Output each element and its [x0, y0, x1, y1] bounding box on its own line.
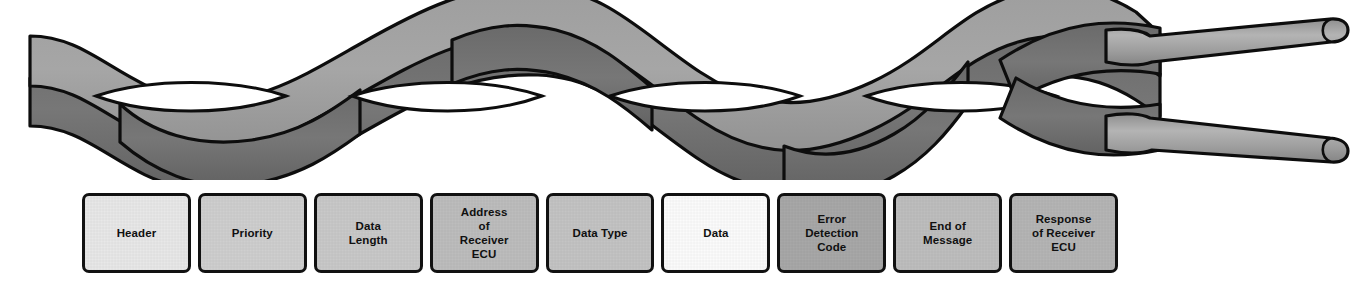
- frame-field-priority: Priority: [198, 193, 307, 273]
- can-bus-twisted-pair-and-message-frame-figure: Header Priority Data Length Address of R…: [0, 0, 1372, 292]
- frame-field-data-type: Data Type: [546, 193, 655, 273]
- frame-field-label: Error Detection Code: [802, 212, 861, 254]
- frame-field-error-detection-code: Error Detection Code: [777, 193, 886, 273]
- frame-field-data-length: Data Length: [314, 193, 423, 273]
- frame-field-end-of-message: End of Message: [893, 193, 1002, 273]
- frame-field-label: Response of Receiver ECU: [1029, 212, 1098, 254]
- frame-field-label: Priority: [229, 226, 276, 240]
- frame-field-data: Data: [661, 193, 770, 273]
- frame-field-label: Data: [700, 226, 731, 240]
- separated-wire-lower: [1106, 114, 1348, 162]
- frame-field-label: Header: [114, 226, 160, 240]
- message-frame-field-row: Header Priority Data Length Address of R…: [82, 193, 1118, 273]
- frame-field-response-of-receiver-ecu: Response of Receiver ECU: [1009, 193, 1118, 273]
- twisted-pair-wire-svg: [0, 0, 1372, 180]
- twisted-pair-wire-illustration: [0, 0, 1372, 180]
- frame-field-label: End of Message: [920, 219, 975, 247]
- frame-field-address-of-receiver-ecu: Address of Receiver ECU: [430, 193, 539, 273]
- frame-field-label: Data Type: [570, 226, 631, 240]
- frame-field-header: Header: [82, 193, 191, 273]
- frame-field-label: Address of Receiver ECU: [457, 205, 512, 261]
- twist-eye-openings: [96, 83, 1056, 112]
- frame-field-label: Data Length: [346, 219, 391, 247]
